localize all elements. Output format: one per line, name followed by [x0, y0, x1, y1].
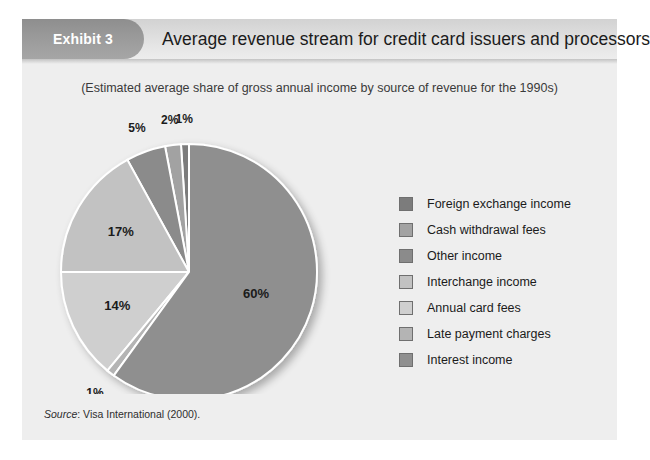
chart-legend: Foreign exchange incomeCash withdrawal f…: [399, 191, 614, 373]
legend-item-label: Annual card fees: [427, 301, 521, 315]
pie-chart: 1%2%5%17%14%1%60%: [22, 104, 422, 394]
legend-item-label: Other income: [427, 249, 502, 263]
pie-data-label: 1%: [86, 386, 104, 394]
legend-item: Interchange income: [399, 269, 614, 295]
header-drop-shadow: [22, 59, 617, 64]
exhibit-number-badge: Exhibit 3: [22, 19, 144, 59]
legend-item-label: Late payment charges: [427, 327, 551, 341]
pie-slice-group: [61, 144, 317, 394]
legend-color-swatch: [399, 249, 413, 263]
pie-data-label: 5%: [128, 121, 146, 135]
pie-chart-svg: 1%2%5%17%14%1%60%: [22, 104, 422, 394]
exhibit-title: Average revenue stream for credit card i…: [162, 19, 650, 59]
legend-item-label: Interchange income: [427, 275, 537, 289]
legend-color-swatch: [399, 275, 413, 289]
legend-item: Interest income: [399, 347, 614, 373]
legend-color-swatch: [399, 223, 413, 237]
source-label: Source: [44, 408, 77, 420]
source-text: : Visa International (2000).: [77, 408, 200, 420]
pie-data-label: 2%: [161, 113, 179, 127]
legend-color-swatch: [399, 301, 413, 315]
exhibit-header-bar: Exhibit 3 Average revenue stream for cre…: [22, 19, 617, 59]
legend-item-label: Foreign exchange income: [427, 197, 571, 211]
legend-color-swatch: [399, 197, 413, 211]
legend-item: Annual card fees: [399, 295, 614, 321]
legend-color-swatch: [399, 353, 413, 367]
legend-item: Other income: [399, 243, 614, 269]
exhibit-container: Exhibit 3 Average revenue stream for cre…: [22, 19, 617, 440]
legend-color-swatch: [399, 327, 413, 341]
chart-subtitle: (Estimated average share of gross annual…: [22, 81, 617, 95]
pie-data-label: 14%: [104, 298, 130, 313]
pie-data-label: 60%: [243, 286, 269, 301]
source-note: Source: Visa International (2000).: [44, 408, 200, 420]
legend-item-label: Interest income: [427, 353, 512, 367]
legend-item: Foreign exchange income: [399, 191, 614, 217]
legend-item: Cash withdrawal fees: [399, 217, 614, 243]
pie-data-label: 17%: [108, 224, 134, 239]
legend-item-label: Cash withdrawal fees: [427, 223, 546, 237]
legend-item: Late payment charges: [399, 321, 614, 347]
